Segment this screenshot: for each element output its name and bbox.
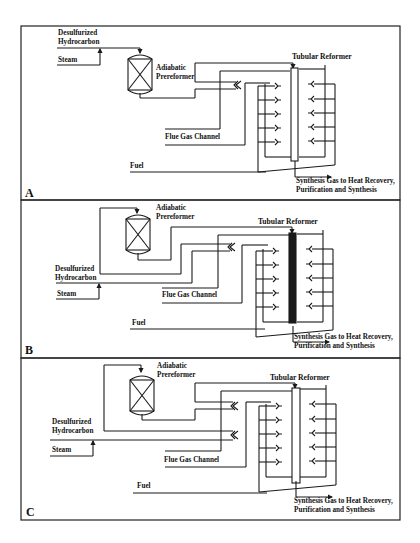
panel-c-frame <box>21 358 400 520</box>
hydrocarbon-label-line1: Desulfurized <box>58 29 97 37</box>
prereformer-label-line1: Adiabatic <box>156 204 187 212</box>
panel-letter-b: B <box>25 343 33 357</box>
flue-gas-channel-label: Flue Gas Channel <box>162 291 217 299</box>
prereformer-label-line2: Prereformer <box>156 213 195 221</box>
syngas-label-line2: Purification and Synthesis <box>294 342 375 350</box>
syngas-label-line1: Synthesis Gas to Heat Recovery, <box>294 333 393 341</box>
heat-exchanger-icon <box>231 431 238 439</box>
prereformer-vessel-icon <box>130 376 154 415</box>
tubular-reformer-label: Tubular Reformer <box>292 52 352 61</box>
flue-gas-channel-label: Flue Gas Channel <box>165 133 220 141</box>
syngas-label-line2: Purification and Synthesis <box>294 506 375 514</box>
hydrocarbon-label-line1: Desulfurized <box>55 265 94 273</box>
prereformer-label-line1: Adiabatic <box>157 362 188 370</box>
prereformer-vessel-icon <box>126 215 150 254</box>
panel-c: Adiabatic Prereformer Desulfurized Hydro… <box>21 358 400 520</box>
fuel-label: Fuel <box>130 162 144 170</box>
prereformer-vessel-icon <box>128 55 152 94</box>
syngas-label-line1: Synthesis Gas to Heat Recovery, <box>296 177 395 185</box>
panel-letter-c: C <box>26 505 35 519</box>
tubular-reformer-label: Tubular Reformer <box>270 373 330 382</box>
prereformer-label-line2: Prereformer <box>157 371 196 379</box>
hydrocarbon-label-line1: Desulfurized <box>52 418 91 426</box>
prereformer-label-line1: Adiabatic <box>156 64 187 72</box>
reformer-tube <box>291 68 298 161</box>
panel-letter-a: A <box>25 186 34 200</box>
hydrocarbon-label-line2: Hydrocarbon <box>55 274 96 282</box>
steam-label: Steam <box>52 446 71 454</box>
prereformer-label-line2: Prereformer <box>156 73 195 81</box>
syngas-label-line2: Purification and Synthesis <box>296 186 377 194</box>
tubular-reformer-label: Tubular Reformer <box>258 217 318 226</box>
hydrocarbon-label-line2: Hydrocarbon <box>52 427 93 435</box>
steam-label: Steam <box>57 290 76 298</box>
reformer-tube <box>292 388 300 483</box>
syngas-label-line1: Synthesis Gas to Heat Recovery, <box>294 497 393 505</box>
fuel-label: Fuel <box>137 482 151 490</box>
fuel-label: Fuel <box>132 319 146 327</box>
hydrocarbon-label-line2: Hydrocarbon <box>58 38 99 46</box>
panel-a: Desulfurized Hydrocarbon Steam Adiabatic… <box>21 26 400 200</box>
reformer-tube-filled <box>289 233 296 323</box>
flue-gas-channel-label: Flue Gas Channel <box>164 456 219 464</box>
panel-b: Adiabatic Prereformer Desulfurized Hydro… <box>21 200 400 358</box>
process-flow-diagram: Desulfurized Hydrocarbon Steam Adiabatic… <box>0 0 420 543</box>
steam-label: Steam <box>58 56 77 64</box>
